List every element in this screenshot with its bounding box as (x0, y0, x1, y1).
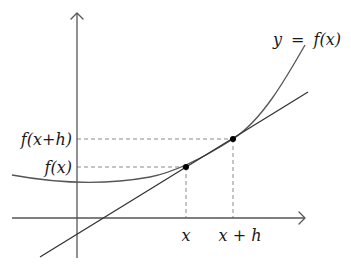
x-label-xh: x + h (219, 226, 262, 245)
y-label-fxh: f(x+h) (20, 130, 72, 149)
secant-diagram: y = f(x) f(x+h) f(x) x x + h (0, 0, 351, 271)
point-x-plus-h (230, 136, 236, 142)
curve-label: y = f(x) (272, 30, 341, 49)
secant-line (40, 92, 308, 257)
point-x (183, 164, 189, 170)
y-label-fx: f(x) (44, 158, 72, 177)
x-label-x: x (181, 226, 190, 245)
guide-lines (77, 139, 233, 218)
